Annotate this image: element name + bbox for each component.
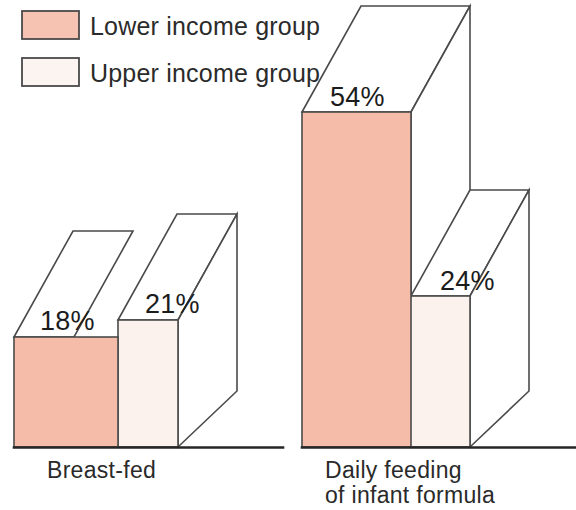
- category-label-formula-line2: of infant formula: [325, 482, 495, 508]
- bar-front-face: [302, 112, 411, 447]
- bar-breastfed-upper-income[interactable]: [118, 214, 237, 447]
- bar-front-face: [14, 337, 118, 447]
- grouped-3d-bar-chart: Lower income group Upper income group 18…: [0, 0, 576, 510]
- bar-value-label-breastfed-lower: 18%: [40, 306, 95, 336]
- legend: Lower income group Upper income group: [22, 11, 320, 87]
- bar-value-label-formula-lower: 54%: [330, 82, 385, 112]
- bar-breastfed-lower-income[interactable]: [14, 231, 133, 447]
- category-label-breastfed: Breast-fed: [47, 457, 156, 483]
- bar-value-label-breastfed-upper: 21%: [145, 289, 200, 319]
- category-label-formula-line1: Daily feeding: [325, 457, 462, 483]
- chart-container: Lower income group Upper income group 18…: [0, 0, 576, 510]
- legend-item-lower-income[interactable]: Lower income group: [22, 11, 320, 40]
- legend-swatch-upper-income: [22, 58, 79, 86]
- legend-label-lower-income: Lower income group: [90, 12, 320, 40]
- bar-front-face: [410, 296, 470, 447]
- bar-value-label-formula-upper: 24%: [440, 266, 495, 296]
- legend-label-upper-income: Upper income group: [90, 59, 320, 87]
- bar-front-face: [118, 320, 178, 447]
- legend-swatch-lower-income: [22, 11, 79, 39]
- legend-item-upper-income[interactable]: Upper income group: [22, 58, 320, 87]
